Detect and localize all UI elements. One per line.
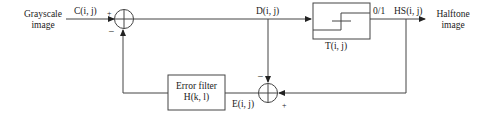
output-label-line2: image [430,20,476,31]
output-label: Halftone image [430,9,476,31]
hs-signal-label: HS(i, j) [394,6,423,17]
e-signal-label: E(i, j) [232,99,254,110]
threshold-output-value: 0/1 [373,6,385,17]
input-label-line2: image [20,20,66,31]
error-filter-line1: Error filter [168,81,225,92]
sum2-plus-sign: + [282,100,287,111]
error-filter-label: Error filter H(k, l) [168,81,225,103]
sum1-minus-sign: – [109,26,114,37]
input-label: Grayscale image [20,9,66,31]
output-label-line1: Halftone [430,9,476,20]
input-label-line1: Grayscale [20,9,66,20]
threshold-label: T(i, j) [325,41,347,52]
c-signal-label: C(i, j) [74,6,97,17]
sum1-plus-sign: + [107,8,112,19]
error-filter-line2: H(k, l) [168,92,225,103]
sum2-minus-sign: – [258,71,263,82]
filter-feedback-arrow [123,30,168,93]
d-signal-label: D(i, j) [256,6,279,17]
hs-feedback-arrow [279,19,406,93]
